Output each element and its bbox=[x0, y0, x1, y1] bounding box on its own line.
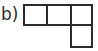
cell-r0c1 bbox=[46, 4, 70, 26]
cell-r0c0 bbox=[23, 4, 46, 26]
figure-label: b) bbox=[1, 3, 21, 25]
figure-container: b) bbox=[0, 0, 98, 51]
polyomino-figure bbox=[23, 4, 93, 48]
cell-r0c2 bbox=[70, 4, 93, 26]
polyomino-svg bbox=[23, 4, 93, 48]
cell-r1c2 bbox=[70, 26, 93, 48]
